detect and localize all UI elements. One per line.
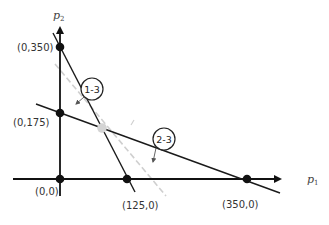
x-axis-label: p1 <box>307 173 319 187</box>
y-axis-label: p2 <box>53 9 65 23</box>
vertex-0-350 <box>56 43 65 52</box>
vertex-0-0 <box>56 175 65 184</box>
point-label-0-175: (0,175) <box>13 117 50 128</box>
pointer-arrow-2-3 <box>153 148 156 162</box>
intersection-point <box>97 123 107 133</box>
line-label-1-3: 1-3 <box>84 84 100 95</box>
vertex-350-0 <box>243 175 252 184</box>
point-label-0-350: (0,350) <box>17 42 54 53</box>
vertex-0-175 <box>56 109 65 118</box>
constraint-line-1-3 <box>53 33 135 192</box>
point-label-0-0: (0,0) <box>35 186 59 197</box>
dashed-direction-arrow <box>131 120 134 125</box>
line-label-2-3: 2-3 <box>156 134 172 145</box>
point-label-125-0: (125,0) <box>122 200 159 211</box>
constraint-diagram: 1-3 2-3 (0,350) (0,175) (0,0) (125,0) (3… <box>0 0 329 225</box>
pointer-arrow-1-3 <box>76 97 84 104</box>
point-label-350-0: (350,0) <box>222 199 259 210</box>
dashed-iso-line <box>55 64 166 196</box>
vertex-125-0 <box>123 175 132 184</box>
